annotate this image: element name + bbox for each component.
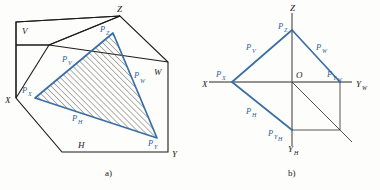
svg-text:Z: Z bbox=[284, 27, 288, 33]
svg-text:V: V bbox=[68, 60, 73, 66]
label-trace-point-px-b: P X bbox=[215, 69, 226, 81]
label-trace-line-ph-b: P H bbox=[245, 106, 257, 118]
trace-line-ph-b bbox=[232, 82, 292, 130]
label-axis-z-b: Z bbox=[290, 3, 296, 13]
label-trace-line-pv-b: P V bbox=[245, 42, 257, 54]
label-trace-point-pyw-b: P Y W bbox=[326, 69, 343, 83]
label-trace-point-px-a: P X bbox=[21, 85, 32, 97]
label-axis-yw-b: Y W bbox=[356, 79, 368, 91]
label-trace-line-pw-b: P W bbox=[315, 42, 328, 54]
svg-text:P: P bbox=[71, 113, 77, 123]
label-trace-line-ph-a: P H bbox=[71, 113, 83, 125]
svg-text:P: P bbox=[245, 42, 251, 52]
svg-text:X: X bbox=[221, 75, 226, 81]
svg-text:H: H bbox=[277, 136, 283, 142]
label-axis-x-a: X bbox=[4, 95, 11, 105]
label-trace-line-pw-a: P W bbox=[133, 70, 146, 84]
trace-triangle-hatch bbox=[35, 33, 157, 138]
label-axis-y-a: Y bbox=[172, 149, 178, 159]
bisector-line bbox=[292, 82, 352, 142]
caption-panel-a: a) bbox=[105, 168, 112, 178]
svg-text:W: W bbox=[362, 85, 368, 91]
panel-a-group: V W H X Y Z P X P Z P Y P V P W P H bbox=[4, 4, 178, 178]
label-origin-b: O bbox=[296, 70, 303, 80]
label-axis-x-b: X bbox=[201, 79, 208, 89]
trace-line-pv-b bbox=[232, 30, 292, 82]
svg-text:H: H bbox=[293, 150, 299, 156]
label-axis-yh-b: Y H bbox=[288, 144, 299, 156]
label-plane-h: H bbox=[77, 140, 85, 150]
svg-text:X: X bbox=[27, 91, 32, 97]
svg-text:P: P bbox=[277, 21, 283, 31]
label-plane-v: V bbox=[22, 26, 29, 36]
label-axis-z-a: Z bbox=[117, 4, 123, 14]
label-trace-point-pz-b: P Z bbox=[277, 21, 288, 33]
svg-text:P: P bbox=[147, 138, 153, 148]
label-trace-point-py-a: P Y bbox=[147, 138, 158, 150]
svg-text:P: P bbox=[21, 85, 27, 95]
svg-text:P: P bbox=[326, 69, 332, 79]
svg-text:P: P bbox=[215, 69, 221, 79]
technical-drawing-figure: V W H X Y Z P X P Z P Y P V P W P H bbox=[0, 0, 380, 190]
label-trace-point-pz-a: P Z bbox=[99, 24, 110, 36]
label-trace-line-pv-a: P V bbox=[61, 54, 73, 66]
svg-text:P: P bbox=[245, 106, 251, 116]
svg-text:W: W bbox=[322, 48, 328, 54]
svg-text:H: H bbox=[251, 112, 257, 118]
panel-b-group: X Z Y W Y H O P X P Z P Y W P Y H bbox=[201, 3, 368, 178]
svg-text:P: P bbox=[315, 42, 321, 52]
svg-text:Y: Y bbox=[154, 144, 158, 150]
caption-panel-b: b) bbox=[288, 168, 296, 178]
label-trace-point-pyh-b: P Y H bbox=[267, 128, 283, 142]
svg-text:W: W bbox=[140, 78, 146, 84]
svg-text:P: P bbox=[99, 24, 105, 34]
svg-text:H: H bbox=[77, 119, 83, 125]
label-plane-w: W bbox=[154, 67, 163, 77]
svg-text:P: P bbox=[133, 70, 139, 80]
svg-text:P: P bbox=[267, 128, 273, 138]
svg-text:P: P bbox=[61, 54, 67, 64]
svg-text:V: V bbox=[252, 48, 257, 54]
